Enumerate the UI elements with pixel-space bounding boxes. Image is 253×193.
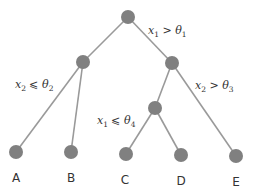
leaf-label-D: D — [176, 174, 185, 188]
edge-right-inner — [155, 63, 172, 108]
leaf-label-A: A — [12, 171, 21, 185]
tree-node-E — [229, 149, 243, 163]
tree-node-C — [119, 147, 133, 161]
leaf-label-B: B — [67, 171, 75, 185]
tree-node-D — [174, 148, 188, 162]
decision-tree-diagram: x1 > θ1x2 ⩽ θ2x2 > θ3x1 ⩽ θ4 ABCDE — [0, 0, 253, 193]
edge-inner-D — [155, 108, 181, 155]
leaf-labels: ABCDE — [12, 171, 240, 189]
tree-node-inner — [148, 101, 162, 115]
leaf-label-C: C — [121, 173, 129, 187]
tree-node-right — [165, 56, 179, 70]
tree-node-root — [121, 10, 135, 24]
condition-label: x2 > θ3 — [195, 79, 234, 94]
tree-node-A — [9, 145, 23, 159]
split-conditions: x1 > θ1x2 ⩽ θ2x2 > θ3x1 ⩽ θ4 — [15, 24, 234, 129]
edge-root-left — [83, 17, 128, 62]
condition-label: x2 ⩽ θ2 — [15, 78, 54, 93]
edge-right-E — [172, 63, 236, 156]
condition-label: x1 > θ1 — [148, 24, 187, 39]
tree-node-left — [76, 55, 90, 69]
tree-node-B — [64, 145, 78, 159]
leaf-label-E: E — [232, 175, 240, 189]
condition-label: x1 ⩽ θ4 — [97, 114, 136, 129]
